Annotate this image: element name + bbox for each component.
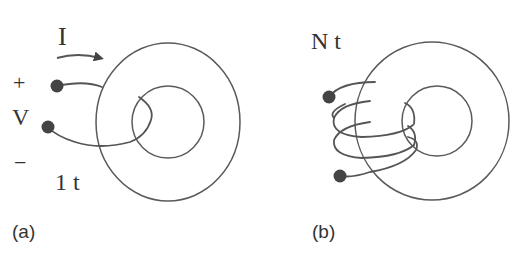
turns-label-a: 1 t	[55, 169, 80, 195]
core-outer-ring-b	[355, 42, 509, 200]
core-inner-ring-a	[132, 86, 204, 158]
panel-b: N t (b)	[311, 28, 509, 242]
core-outer-ring-a	[96, 43, 240, 201]
winding-single-turn	[57, 83, 102, 87]
current-arrow-icon	[57, 55, 100, 58]
winding-multi-turn	[329, 82, 417, 177]
current-label: I	[58, 22, 67, 51]
panel-a: I + V − 1 t (a)	[12, 22, 240, 242]
terminal-positive-dot	[51, 80, 64, 93]
minus-label: −	[14, 150, 26, 175]
plus-label: +	[13, 70, 25, 95]
terminal-top-dot	[323, 91, 336, 104]
voltage-label: V	[12, 104, 30, 130]
caption-a: (a)	[12, 221, 35, 242]
terminal-bottom-dot	[334, 170, 347, 183]
terminal-negative-dot	[42, 121, 55, 134]
caption-b: (b)	[312, 221, 335, 242]
turns-label-b: N t	[311, 28, 341, 54]
transformer-core-diagram: I + V − 1 t (a) N t (b)	[0, 0, 525, 254]
